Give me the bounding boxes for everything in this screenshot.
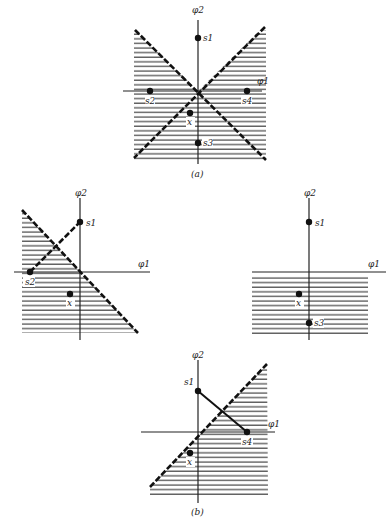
panel-b-right-label-x: x bbox=[296, 298, 301, 308]
panel-b-left-label-x: x bbox=[67, 298, 72, 308]
panel-b-right-label-s1: s1 bbox=[315, 218, 325, 228]
panel-b-left: φ2 φ1 s1 s2 x bbox=[14, 188, 150, 340]
panel-a-label-s3: s3 bbox=[203, 138, 214, 148]
panel-b-right-point-s3 bbox=[306, 320, 312, 326]
panel-a-point-s3 bbox=[195, 140, 201, 146]
decision-regions-figure: φ2 φ1 s1 s2 s4 x s3 (a) φ2 φ1 s1 s2 x bbox=[0, 0, 388, 521]
panel-b-right-point-x bbox=[296, 291, 302, 297]
panel-b-bottom-point-s4 bbox=[244, 429, 250, 435]
panel-b-bottom: φ2 φ1 s1 s4 x (b) bbox=[141, 350, 280, 517]
panel-a-point-x bbox=[187, 110, 193, 116]
panel-a-point-s1 bbox=[195, 35, 201, 41]
panel-a-caption: (a) bbox=[191, 169, 204, 179]
panel-a-point-s4 bbox=[244, 88, 250, 94]
panel-a-phi2-label: φ2 bbox=[192, 5, 204, 15]
panel-b-right-point-s1 bbox=[306, 219, 312, 225]
panel-a-phi1-label: φ1 bbox=[257, 76, 269, 86]
panel-b-bottom-label-x: x bbox=[187, 457, 192, 467]
panel-a-label-s1: s1 bbox=[203, 33, 213, 43]
panel-b-right-label-s3: s3 bbox=[314, 318, 325, 328]
panel-b-right: φ2 φ1 s1 x s3 bbox=[252, 188, 386, 340]
panel-b-left-phi2-label: φ2 bbox=[75, 188, 87, 198]
panel-b-bottom-label-s4: s4 bbox=[242, 437, 253, 447]
panel-b-bottom-point-s1 bbox=[195, 388, 201, 394]
panel-b-right-phi2-label: φ2 bbox=[304, 188, 316, 198]
panel-b-bottom-point-x bbox=[187, 450, 193, 456]
panel-a: φ2 φ1 s1 s2 s4 x s3 (a) bbox=[123, 5, 269, 179]
panel-a-label-x: x bbox=[187, 117, 192, 127]
panel-b-caption: (b) bbox=[191, 507, 204, 517]
panel-a-label-s2: s2 bbox=[145, 96, 156, 106]
panel-b-left-point-x bbox=[67, 291, 73, 297]
panel-b-left-point-s2 bbox=[27, 269, 33, 275]
panel-a-label-s4: s4 bbox=[242, 96, 253, 106]
panel-b-left-label-s1: s1 bbox=[86, 218, 96, 228]
panel-b-bottom-shaded-region bbox=[150, 364, 268, 496]
panel-b-left-label-s2: s2 bbox=[25, 277, 36, 287]
panel-b-bottom-label-s1: s1 bbox=[184, 377, 194, 387]
panel-b-left-point-s1 bbox=[77, 219, 83, 225]
panel-b-left-phi1-label: φ1 bbox=[138, 259, 150, 269]
panel-b-bottom-phi2-label: φ2 bbox=[192, 350, 204, 360]
panel-a-point-s2 bbox=[147, 88, 153, 94]
panel-b-right-phi1-label: φ1 bbox=[368, 259, 380, 269]
panel-b-bottom-phi1-label: φ1 bbox=[268, 419, 280, 429]
